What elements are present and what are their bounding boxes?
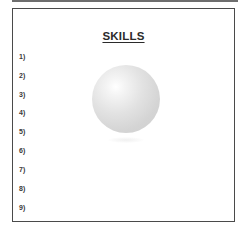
skills-title-text: SKILLS — [102, 30, 144, 42]
skill-item-9: 9) — [19, 204, 25, 211]
skill-item-4: 4) — [19, 109, 25, 116]
skill-item-8: 8) — [19, 185, 25, 192]
skill-item-7: 7) — [19, 166, 25, 173]
skill-item-3: 3) — [19, 91, 25, 98]
skills-title: SKILLS — [13, 30, 234, 42]
skill-item-1: 1) — [19, 53, 25, 60]
skill-item-5: 5) — [19, 128, 25, 135]
sphere-image — [92, 65, 160, 133]
skill-item-2: 2) — [19, 72, 25, 79]
sphere-shadow — [108, 137, 144, 143]
skill-item-6: 6) — [19, 147, 25, 154]
skills-box: SKILLS 1) 2) 3) 4) 5) 6) 7) 8) 9) — [12, 8, 235, 222]
top-divider — [12, 0, 238, 2]
